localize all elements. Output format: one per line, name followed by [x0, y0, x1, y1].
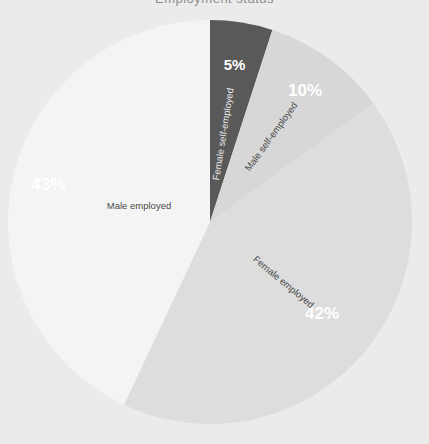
- slice-value-label-female-self-employed: 5%: [224, 56, 246, 73]
- slice-value-label-male-self-employed: 10%: [288, 81, 322, 100]
- pie-slices: [8, 20, 412, 424]
- slice-category-label-male-employed: Male employed: [107, 200, 171, 211]
- pie-svg: 5% 10% 42% 43% Female self-employed Male…: [0, 0, 429, 444]
- slice-value-label-male-employed: 43%: [31, 175, 65, 194]
- pie-chart: Employment status 5% 10% 42% 43% Female …: [0, 0, 429, 444]
